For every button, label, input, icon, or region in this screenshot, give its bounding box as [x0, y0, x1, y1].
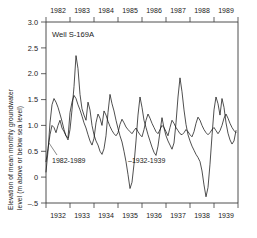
- series-label-recent: 1982-1989: [52, 157, 86, 164]
- bottom-tick-label-1937: 1937: [170, 212, 186, 219]
- bottom-tick-label-1936: 1936: [146, 212, 162, 219]
- top-tick-label-1982: 1982: [50, 7, 66, 14]
- top-tick-label-1984: 1984: [98, 7, 114, 14]
- y-axis-labels: 3.0 2.5 2.0 1.5 1.0 0.5 0 –.5: [28, 18, 38, 208]
- y-tick-label-0: 0: [34, 173, 38, 182]
- well-label: Well S-169A: [52, 30, 95, 39]
- y-axis-title: Elevation of mean monthly groundwater le…: [0, 0, 26, 238]
- top-tick-label-1989: 1989: [218, 7, 234, 14]
- series-line-1932-1939: [46, 56, 236, 197]
- y-axis-ticks: [41, 22, 46, 203]
- y-axis-title-line2: level (m above or below sea level): [16, 106, 25, 210]
- bottom-axis-labels: 1932 1933 1934 1935 1936 1937 1938 1939: [50, 212, 234, 219]
- chart-figure: Elevation of mean monthly groundwater le…: [0, 0, 257, 238]
- bottom-tick-label-1938: 1938: [194, 212, 210, 219]
- top-tick-label-1985: 1985: [122, 7, 138, 14]
- bottom-tick-label-1934: 1934: [98, 212, 114, 219]
- y-tick-label-2-0: 2.0: [28, 69, 38, 78]
- top-axis-ticks: [46, 17, 238, 22]
- y-tick-label-1-5: 1.5: [28, 95, 38, 104]
- y-tick-label-1-0: 1.0: [28, 121, 38, 130]
- top-tick-label-1983: 1983: [74, 7, 90, 14]
- bottom-tick-label-1935: 1935: [122, 212, 138, 219]
- leader-line-recent: [49, 143, 57, 155]
- bottom-tick-label-1939: 1939: [218, 212, 234, 219]
- y-tick-label-0-5: 0.5: [28, 147, 38, 156]
- top-tick-label-1987: 1987: [170, 7, 186, 14]
- data-series-group: [46, 56, 236, 197]
- bottom-tick-label-1933: 1933: [74, 212, 90, 219]
- top-tick-label-1988: 1988: [194, 7, 210, 14]
- top-axis-labels: 1982 1983 1984 1985 1986 1987 1988 1989: [50, 7, 234, 14]
- y-tick-label-3-0: 3.0: [28, 18, 38, 27]
- y-axis-title-line1: Elevation of mean monthly groundwater: [7, 89, 16, 210]
- y-tick-label-2-5: 2.5: [28, 44, 38, 53]
- series-label-historic: –1932-1939: [128, 157, 165, 164]
- series-line-1982-1989: [46, 95, 236, 161]
- bottom-axis-ticks: [46, 203, 238, 208]
- bottom-tick-label-1932: 1932: [50, 212, 66, 219]
- top-tick-label-1986: 1986: [146, 7, 162, 14]
- chart-svg: 1982 1983 1984 1985 1986 1987 1988 1989 …: [0, 0, 257, 238]
- y-tick-label-neg-0-5: –.5: [28, 199, 38, 208]
